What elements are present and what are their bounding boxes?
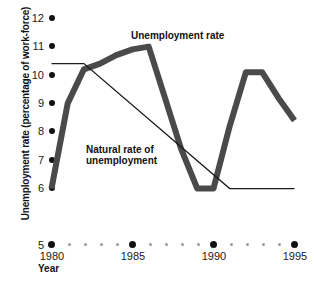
annotation-natural-rate-line1: Natural rate of: [86, 144, 154, 155]
annotation-natural-rate-line2: unemployment: [86, 155, 157, 166]
annotation-unemployment-rate: Unemployment rate: [131, 30, 224, 41]
plot-lines: [0, 0, 314, 284]
chart-container: Unemployment rate (percentage of work-fo…: [0, 0, 314, 284]
annotation-natural-rate: Natural rate of unemployment: [86, 144, 182, 166]
